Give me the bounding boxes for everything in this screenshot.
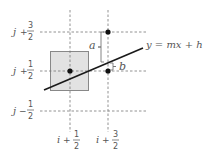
- svg-text:+: +: [63, 135, 71, 145]
- svg-text:i: i: [57, 134, 60, 145]
- bracket-a: [98, 32, 104, 62]
- label-b: b: [119, 60, 126, 73]
- svg-text:+: +: [20, 27, 28, 37]
- dot-right: [105, 68, 110, 73]
- svg-text:2: 2: [113, 142, 118, 151]
- dot-center: [67, 68, 72, 73]
- svg-text:3: 3: [28, 21, 33, 30]
- col-label-i-plus-3-2: i + 3 2: [96, 130, 119, 151]
- dot-upper-right: [105, 29, 110, 34]
- row-label-j-plus-1-2: j + 1 2: [11, 60, 34, 81]
- row-label-j-plus-3-2: j + 3 2: [11, 21, 34, 42]
- svg-text:+: +: [102, 135, 110, 145]
- svg-text:2: 2: [28, 112, 33, 121]
- svg-text:−: −: [19, 106, 27, 116]
- svg-text:j: j: [11, 65, 16, 76]
- svg-text:2: 2: [28, 72, 33, 81]
- midpoint-diagram: a b y = mx + h j + 3 2 j + 1 2 j − 1 2 i…: [0, 0, 204, 162]
- label-a: a: [89, 39, 96, 52]
- svg-text:+: +: [20, 66, 28, 76]
- svg-text:1: 1: [28, 100, 33, 109]
- svg-text:1: 1: [74, 130, 79, 139]
- svg-text:1: 1: [28, 60, 33, 69]
- bracket-b: [110, 63, 116, 70]
- svg-text:j: j: [11, 26, 16, 37]
- col-label-i-plus-1-2: i + 1 2: [57, 130, 80, 151]
- row-label-j-minus-1-2: j − 1 2: [11, 100, 34, 121]
- equation-label: y = mx + h: [145, 39, 203, 50]
- svg-text:2: 2: [28, 33, 33, 42]
- svg-text:2: 2: [74, 142, 79, 151]
- svg-text:j: j: [11, 105, 16, 116]
- svg-text:3: 3: [113, 130, 118, 139]
- svg-text:i: i: [96, 134, 99, 145]
